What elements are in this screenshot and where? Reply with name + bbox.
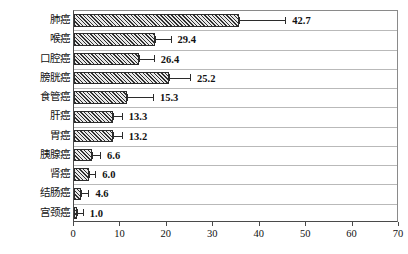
error-bar-cap-right: [122, 113, 123, 120]
error-bar-cap-right: [285, 17, 286, 24]
error-bar-cap-right: [83, 209, 84, 216]
x-axis-tick-label: 10: [104, 227, 134, 240]
bar-row: 15.3: [74, 88, 397, 107]
bar: [74, 111, 113, 123]
x-axis-tick: [259, 222, 260, 226]
bar: [74, 91, 127, 103]
error-bar-cap-right: [88, 190, 89, 197]
x-axis-tick: [352, 222, 353, 226]
x-axis-tick: [119, 222, 120, 226]
bar-value-label: 15.3: [160, 91, 178, 104]
bar: [74, 188, 81, 200]
x-axis-tick-label: 60: [337, 227, 367, 240]
error-bar-cap-right: [154, 55, 155, 62]
error-bar-cap-right: [95, 171, 96, 178]
error-bar-cap-left: [169, 74, 170, 81]
error-bar-line: [169, 78, 190, 79]
error-bar-cap-right: [171, 36, 172, 43]
x-axis-tick-label: 50: [290, 227, 320, 240]
error-bar-line: [92, 155, 100, 156]
category-label: 肺癌: [0, 10, 70, 29]
error-bar-cap-left: [89, 171, 90, 178]
x-axis-tick-label: 20: [151, 227, 181, 240]
error-bar-line: [113, 116, 121, 117]
error-bar-cap-left: [113, 132, 114, 139]
error-bar-line: [139, 59, 154, 60]
bar-row: 13.2: [74, 127, 397, 146]
x-axis-tick: [212, 222, 213, 226]
bar: [74, 72, 169, 84]
bar: [74, 33, 155, 45]
bar-row: 13.3: [74, 107, 397, 126]
bar-value-label: 6.0: [102, 168, 115, 181]
error-bar-cap-right: [190, 74, 191, 81]
bar-value-label: 13.2: [129, 130, 147, 143]
error-bar-cap-left: [155, 36, 156, 43]
error-bar-cap-left: [239, 17, 240, 24]
bar-value-label: 4.6: [95, 187, 108, 200]
x-axis-tick: [305, 222, 306, 226]
error-bar-cap-left: [127, 94, 128, 101]
category-axis-labels: 肺癌喉癌口腔癌膀胱癌食管癌肝癌胃癌胰腺癌肾癌结肠癌宫颈癌: [0, 10, 70, 222]
bar-row: 42.7: [74, 11, 397, 30]
category-label: 喉癌: [0, 29, 70, 48]
x-axis-tick-label: 70: [383, 227, 408, 240]
error-bar-cap-left: [81, 190, 82, 197]
error-bar-cap-left: [139, 55, 140, 62]
bar-row: 1.0: [74, 204, 397, 223]
bar: [74, 149, 92, 161]
error-bar-cap-right: [153, 94, 154, 101]
error-bar-cap-right: [122, 132, 123, 139]
error-bar-line: [127, 97, 153, 98]
error-bar-line: [81, 193, 88, 194]
category-label: 胃癌: [0, 126, 70, 145]
error-bar-cap-right: [100, 152, 101, 159]
bar-row: 6.6: [74, 146, 397, 165]
x-axis-tick-label: 30: [197, 227, 227, 240]
error-bar-cap-left: [113, 113, 114, 120]
bar: [74, 53, 139, 65]
category-label: 肝癌: [0, 106, 70, 125]
plot-area: 42.729.426.425.215.313.313.26.66.04.61.0: [73, 10, 398, 222]
category-label: 口腔癌: [0, 49, 70, 68]
bar-value-label: 26.4: [161, 53, 179, 66]
x-axis-tick: [73, 222, 74, 226]
category-label: 结肠癌: [0, 183, 70, 202]
error-bar-cap-left: [92, 152, 93, 159]
bar: [74, 14, 239, 26]
bar-value-label: 6.6: [107, 149, 120, 162]
category-label: 胰腺癌: [0, 145, 70, 164]
bar-value-label: 42.7: [292, 14, 310, 27]
category-label: 肾癌: [0, 164, 70, 183]
bar-value-label: 1.0: [90, 207, 103, 220]
bar-row: 25.2: [74, 69, 397, 88]
category-label: 食管癌: [0, 87, 70, 106]
x-axis-tick: [166, 222, 167, 226]
bar-value-label: 13.3: [129, 110, 147, 123]
x-axis-tick: [398, 222, 399, 226]
bar-row: 29.4: [74, 30, 397, 49]
bar-row: 6.0: [74, 165, 397, 184]
x-axis-tick-label: 40: [244, 227, 274, 240]
error-bar-line: [239, 20, 285, 21]
error-bar-cap-left: [77, 209, 78, 216]
bar-row: 26.4: [74, 50, 397, 69]
bar: [74, 168, 89, 180]
category-label: 宫颈癌: [0, 203, 70, 222]
x-axis: 010203040506070: [73, 222, 398, 254]
bar-chart: 肺癌喉癌口腔癌膀胱癌食管癌肝癌胃癌胰腺癌肾癌结肠癌宫颈癌 42.729.426.…: [0, 0, 408, 254]
bar-value-label: 25.2: [197, 72, 215, 85]
x-axis-tick-label: 0: [58, 227, 88, 240]
bar-value-label: 29.4: [178, 33, 196, 46]
bar: [74, 130, 113, 142]
category-label: 膀胱癌: [0, 68, 70, 87]
error-bar-line: [155, 39, 170, 40]
error-bar-line: [113, 136, 121, 137]
bar-row: 4.6: [74, 184, 397, 203]
